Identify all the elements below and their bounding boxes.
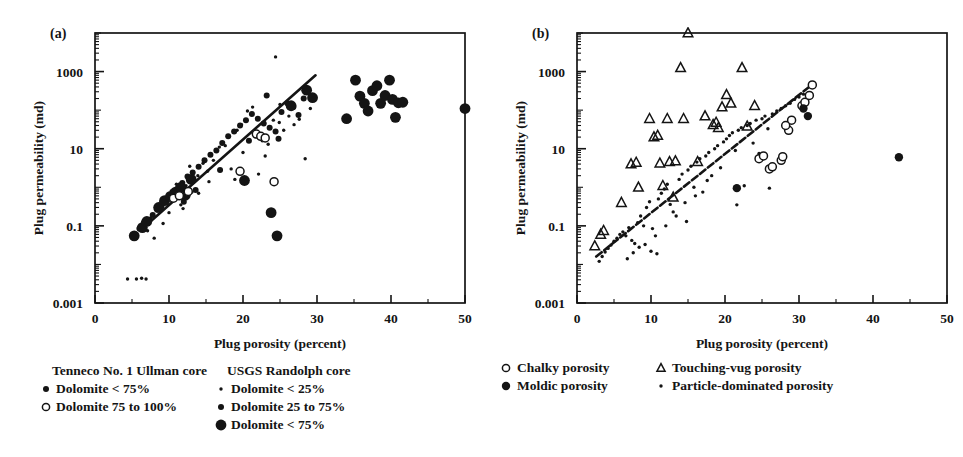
x-tick-label: 10 [162,311,176,326]
data-point [272,118,275,121]
data-point [713,147,716,150]
legend-marker-open-triangle-icon [657,364,665,372]
data-point [255,116,261,122]
legend-panel-b: Chalky porosityMoldic porosityTouching-v… [502,360,834,393]
data-point [372,80,383,91]
data-point [246,138,252,144]
data-point [186,174,197,185]
data-point [636,221,639,224]
data-point [700,111,710,120]
data-point [771,112,774,115]
data-point [725,137,728,140]
data-point [666,183,669,186]
data-point [236,167,244,175]
y-axis-label: Plug permeability (md) [31,101,46,235]
data-point [784,104,787,107]
data-point [266,143,269,146]
data-point [590,241,600,250]
data-point [639,214,642,217]
data-point [676,63,686,72]
data-point [735,203,738,206]
legend-marker-large-filled-circle-icon [216,420,227,431]
data-point [674,214,677,217]
data-point [264,92,270,98]
data-point [722,90,732,99]
data-point [768,186,771,189]
data-point [664,224,667,227]
panel-a: 010203040501000100.10.001Plug porosity (… [31,26,472,351]
data-point [219,140,225,146]
data-point [301,96,307,102]
y-tick-label: 10 [70,142,84,157]
data-point [287,114,290,117]
data-point [632,251,635,254]
data-point [634,182,644,191]
y-tick-label: 10 [552,142,566,157]
data-point [460,103,471,114]
data-point [303,157,306,160]
panel-label: (a) [50,26,67,42]
data-point [161,222,164,225]
data-point [261,134,269,142]
legend-item-label: Touching-vug porosity [672,360,802,375]
data-point [683,201,686,204]
data-point [726,98,736,107]
data-point [272,230,283,241]
y-tick-label: 0.1 [548,219,565,234]
data-point [144,277,147,280]
data-point [270,178,278,186]
data-point [350,75,361,86]
data-point [759,152,767,160]
x-tick-label: 30 [310,311,324,326]
data-point [278,121,281,124]
data-point [273,128,279,134]
data-point [808,81,816,89]
data-point [624,234,627,237]
data-point [686,168,689,171]
y-axis-label: Plug permeability (md) [513,101,528,235]
x-tick-label: 50 [940,311,954,326]
data-point [775,109,778,112]
data-point [217,167,223,173]
data-point [196,174,199,177]
data-point [246,109,249,112]
data-point [213,147,219,153]
data-point [276,136,282,142]
data-point [733,184,741,192]
data-point [692,186,695,189]
panel-b: 010203040501000100.10.001Plug porosity (… [513,26,954,351]
data-point [768,163,776,171]
data-point [782,121,790,129]
data-point [207,152,213,158]
data-point [748,122,751,125]
data-point [633,242,636,245]
y-tick-label: 1000 [538,65,565,80]
figure-container: 010203040501000100.10.001Plug porosity (… [0,0,963,457]
data-point [645,206,648,209]
data-point [630,239,633,242]
data-point [763,114,766,117]
data-point [175,192,183,200]
x-axis-label: Plug porosity (percent) [214,336,346,351]
data-point [737,129,740,132]
series [129,75,471,242]
data-point [202,157,208,163]
data-point [645,113,655,122]
data-point [153,236,156,239]
legend-item-label: Particle-dominated porosity [672,378,834,393]
data-point [660,192,663,195]
data-point [126,277,129,280]
data-point [206,170,209,173]
data-point [704,154,707,157]
data-point [307,92,318,103]
data-point [669,203,672,206]
data-point [363,106,374,117]
data-point [612,240,615,243]
data-point [734,149,737,152]
data-point [654,234,657,237]
data-point [292,123,295,126]
legend-marker-open-circle-icon [42,403,49,410]
data-point [706,179,709,182]
scatter-figure: 010203040501000100.10.001Plug porosity (… [0,0,963,457]
data-point [309,107,312,110]
